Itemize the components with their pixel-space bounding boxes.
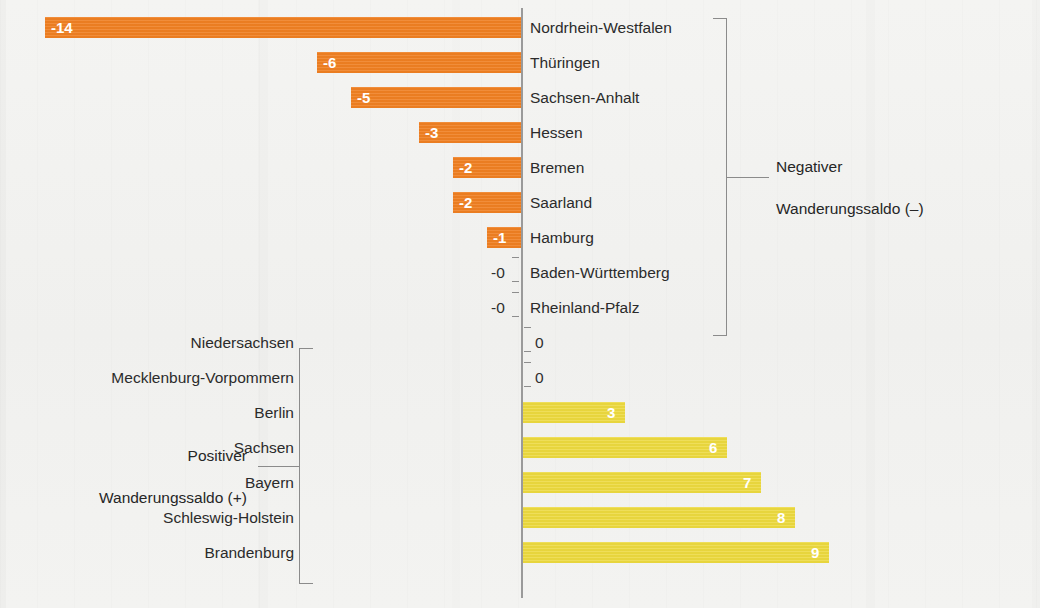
positive-group-bracket [299, 348, 313, 584]
chart-canvas: -14Nordrhein-Westfalen-6Thüringen-5Sachs… [0, 0, 1040, 608]
positive-group-annotation: Positiver Wanderungssaldo (+) [99, 445, 247, 508]
bar [523, 507, 795, 528]
category-label: Mecklenburg-Vorpommern [111, 367, 294, 388]
bar-row: -6Thüringen [0, 45, 1040, 80]
bar-value-label: 0 [535, 333, 544, 352]
bar-value-label: -2 [459, 193, 472, 212]
bar [523, 472, 761, 493]
bar-row: -5Sachsen-Anhalt [0, 80, 1040, 115]
category-label: Sachsen-Anhalt [530, 87, 639, 108]
zero-tick-mark [512, 292, 519, 293]
bar-row: -0Baden-Württemberg [0, 255, 1040, 290]
negative-group-leader-line [727, 177, 769, 178]
negative-annotation-line2: Wanderungssaldo (–) [776, 200, 924, 217]
negative-group-bracket [713, 18, 727, 336]
zero-tick-mark [524, 386, 531, 387]
bar-row: 0Mecklenburg-Vorpommern [0, 360, 1040, 395]
category-label: Hamburg [530, 227, 594, 248]
bar-row: 9Brandenburg [0, 535, 1040, 570]
category-label: Nordrhein-Westfalen [530, 17, 672, 38]
category-label: Niedersachsen [191, 332, 294, 353]
bar-value-label: 9 [811, 543, 819, 562]
bar-value-label: -0 [491, 298, 505, 317]
category-label: Baden-Württemberg [530, 262, 670, 283]
category-label: Hessen [530, 122, 583, 143]
positive-group-leader-line [258, 466, 300, 467]
bar-value-label: -5 [357, 88, 370, 107]
bar-value-label: -2 [459, 158, 472, 177]
category-label: Bayern [245, 472, 294, 493]
negative-annotation-line1: Negativer [776, 158, 842, 175]
bar [523, 542, 829, 563]
category-label: Saarland [530, 192, 592, 213]
positive-annotation-line1: Positiver [188, 447, 247, 464]
bar-value-label: 6 [709, 438, 717, 457]
zero-tick-mark [512, 281, 519, 282]
zero-tick-mark [512, 316, 519, 317]
plot-area: -14Nordrhein-Westfalen-6Thüringen-5Sachs… [0, 0, 1040, 608]
bar [45, 17, 521, 38]
bar [351, 87, 521, 108]
bar-row: -3Hessen [0, 115, 1040, 150]
zero-tick-mark [524, 327, 531, 328]
zero-tick-mark [524, 362, 531, 363]
bar-row: 3Berlin [0, 395, 1040, 430]
positive-annotation-line2: Wanderungssaldo (+) [99, 489, 247, 506]
category-label: Rheinland-Pfalz [530, 297, 639, 318]
category-label: Berlin [254, 402, 294, 423]
bar-value-label: 7 [743, 473, 751, 492]
category-label: Brandenburg [204, 542, 294, 563]
bar-value-label: -6 [323, 53, 336, 72]
bar-row: -0Rheinland-Pfalz [0, 290, 1040, 325]
bar-value-label: 3 [607, 403, 615, 422]
category-label: Bremen [530, 157, 584, 178]
bar-value-label: 8 [777, 508, 785, 527]
bar-value-label: -14 [51, 18, 73, 37]
bar-value-label: -0 [491, 263, 505, 282]
bar-row: 0Niedersachsen [0, 325, 1040, 360]
negative-group-annotation: Negativer Wanderungssaldo (–) [776, 156, 924, 219]
bar-value-label: -1 [493, 228, 506, 247]
bar-value-label: 0 [535, 368, 544, 387]
zero-tick-mark [524, 351, 531, 352]
bar-row: -1Hamburg [0, 220, 1040, 255]
bar [317, 52, 521, 73]
bar [523, 437, 727, 458]
category-label: Schleswig-Holstein [163, 507, 294, 528]
category-label: Thüringen [530, 52, 600, 73]
bar-value-label: -3 [425, 123, 438, 142]
zero-tick-mark [512, 257, 519, 258]
bar-row: -14Nordrhein-Westfalen [0, 10, 1040, 45]
